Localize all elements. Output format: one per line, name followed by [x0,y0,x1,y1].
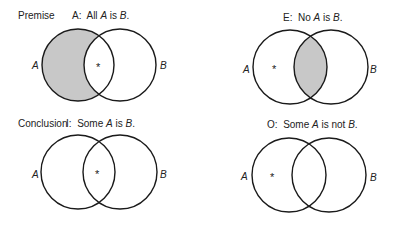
caption-text: . [355,119,358,130]
caption-text: is [113,118,126,129]
caption-predicate: B [333,12,340,23]
venn-diagrams [0,0,395,227]
caption-text: is [107,10,120,21]
section-label-conclusion: Conclusion [18,119,67,129]
caption-o: O: Some A is not B. [267,120,358,130]
caption-text: . [132,118,135,129]
set-label-b: B [370,65,377,75]
set-label-b: B [370,173,377,183]
caption-text: . [340,12,343,23]
caption-i: I: Some A is B. [66,119,135,129]
asterisk-marker: * [95,169,99,180]
caption-letter: O: [267,119,278,130]
circle-a [252,138,326,212]
caption-e: E: No A is B. [283,13,342,23]
caption-subject: A [106,118,113,129]
set-label-b: B [160,61,167,71]
caption-text: All [86,10,100,21]
set-label-a: A [241,172,248,182]
caption-letter: A: [72,10,81,21]
venn-panel-e [253,30,368,104]
caption-text: . [127,10,130,21]
caption-text: is not [319,119,348,130]
caption-letter: I: [66,118,72,129]
circle-b [292,138,366,212]
caption-text: Some [283,119,312,130]
caption-subject: A [312,119,319,130]
asterisk-marker: * [270,172,274,183]
caption-text: is [320,12,333,23]
caption-predicate: B [348,119,355,130]
section-label-premise: Premise [18,11,55,21]
caption-text: Some [77,118,106,129]
set-label-a: A [243,65,250,75]
circle-a [41,135,115,209]
asterisk-marker: * [96,62,100,73]
caption-predicate: B [120,10,127,21]
asterisk-marker: * [272,64,276,75]
set-label-a: A [32,170,39,180]
caption-a: A: All A is B. [72,11,129,21]
set-label-a: A [32,61,39,71]
caption-letter: E: [283,12,292,23]
caption-text: No [298,12,314,23]
set-label-b: B [160,170,167,180]
